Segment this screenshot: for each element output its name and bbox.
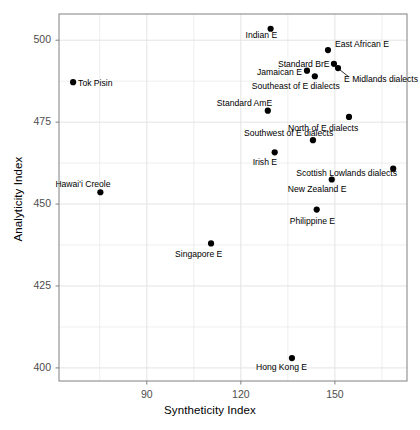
- y-tick-label: 500: [11, 33, 51, 45]
- point-label: East African E: [335, 40, 389, 49]
- point-label: Hawai'i Creole: [55, 180, 110, 189]
- point-label: Singapore E: [175, 250, 222, 259]
- point-label: Indian E: [246, 31, 278, 40]
- point-label: Standard AmE: [217, 99, 272, 108]
- x-tick-label: 150: [315, 388, 355, 400]
- data-point: [346, 114, 352, 120]
- point-label: Irish E: [253, 158, 277, 167]
- y-tick-label: 425: [11, 279, 51, 291]
- data-point: [314, 207, 320, 213]
- data-point: [325, 47, 331, 53]
- x-axis-title: Syntheticity Index: [0, 404, 420, 416]
- y-tick-label: 475: [11, 115, 51, 127]
- data-point: [272, 149, 278, 155]
- data-point: [265, 108, 271, 114]
- y-tick-label: 450: [11, 197, 51, 209]
- data-point: [289, 355, 295, 361]
- x-tick-label: 90: [127, 388, 167, 400]
- point-label: Southeast of E dialects: [252, 82, 340, 91]
- point-label: Jamaican E: [257, 68, 302, 77]
- point-label: Southwest of E dialects: [244, 129, 333, 138]
- scatter-plot-figure: [0, 0, 420, 430]
- data-point: [97, 189, 103, 195]
- plot-panel-background: [59, 14, 407, 381]
- point-label: E Midlands dialects: [344, 75, 418, 84]
- data-point: [312, 73, 318, 79]
- data-point: [70, 79, 76, 85]
- y-tick-label: 400: [11, 361, 51, 373]
- point-label: Hong Kong E: [256, 363, 307, 372]
- point-label: Tok Pisin: [78, 79, 112, 88]
- point-label: Scottish Lowlands dialects: [296, 169, 397, 178]
- data-point: [335, 65, 341, 71]
- x-tick-label: 120: [221, 388, 261, 400]
- point-label: New Zealand E: [288, 185, 347, 194]
- data-point: [208, 240, 214, 246]
- point-label: Philippine E: [290, 217, 335, 226]
